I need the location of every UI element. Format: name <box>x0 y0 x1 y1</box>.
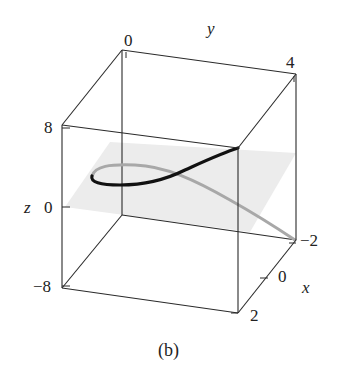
x-tick-2: 2 <box>250 306 259 325</box>
figure-caption: (b) <box>158 340 179 361</box>
y-axis-label: y <box>205 19 215 38</box>
y-tick-4: 4 <box>286 53 295 72</box>
figure-3d-plot: 8 0 −8 z 0 4 y −2 0 x 2 (b) <box>0 0 341 380</box>
z-tick-0: 0 <box>44 198 53 217</box>
x-tick-0: 0 <box>278 267 287 286</box>
z-axis-label: z <box>23 198 31 217</box>
z-tick-neg8: −8 <box>33 277 51 296</box>
z-tick-8: 8 <box>44 118 53 137</box>
x-tick-neg2: −2 <box>300 231 318 250</box>
y-tick-0: 0 <box>124 31 133 50</box>
x-axis-label: x <box>301 278 310 297</box>
